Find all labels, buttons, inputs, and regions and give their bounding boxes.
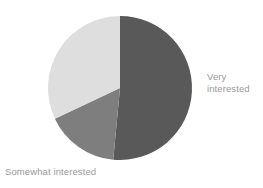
pie-slices	[48, 16, 192, 160]
pie-label-very-interested: Very interested	[207, 71, 263, 94]
pie-label-somewhat-interested: Somewhat interested	[5, 166, 135, 178]
pie-slice-very-interested[interactable]	[113, 16, 192, 160]
pie-chart: Very interested Somewhat interested	[0, 0, 263, 188]
pie-chart-svg	[0, 0, 263, 188]
